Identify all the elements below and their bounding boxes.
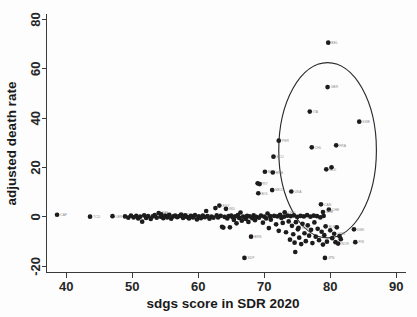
- data-point-label: BRN: [254, 235, 262, 239]
- data-point-marker: [110, 214, 115, 219]
- scatter-plot-canvas: -20020406080405060708090 CAFTCDLBRZAFLAO…: [0, 0, 417, 317]
- data-point-label: ITA: [313, 110, 319, 114]
- data-point-label: GBR: [331, 85, 339, 89]
- data-point-marker: [154, 215, 159, 220]
- scatter-plot-figure: -20020406080405060708090 CAFTCDLBRZAFLAO…: [0, 0, 417, 317]
- data-point-marker: [309, 145, 314, 150]
- data-point-label: CAF: [60, 213, 67, 217]
- x-tick-label: 80: [323, 279, 337, 294]
- data-point-marker: [276, 228, 281, 233]
- data-point-marker: [228, 225, 233, 230]
- data-point-label: USA: [294, 190, 302, 194]
- data-point-marker: [204, 209, 209, 214]
- data-point-marker: [270, 188, 275, 193]
- x-axis-title: sdgs score in SDR 2020: [146, 296, 299, 311]
- data-point-label: CHL: [315, 146, 322, 150]
- data-point-label: CAN: [324, 203, 332, 207]
- data-point-marker: [334, 143, 339, 148]
- data-point-marker: [261, 220, 266, 225]
- x-tick-label: 60: [191, 279, 205, 294]
- data-point-marker: [270, 170, 275, 175]
- data-point-marker: [276, 138, 281, 143]
- data-point-marker: [322, 233, 327, 238]
- data-point-label: MKD: [275, 188, 283, 192]
- data-point-marker: [325, 85, 330, 90]
- data-point-marker: [299, 242, 304, 247]
- data-point-label: SDP: [248, 256, 256, 260]
- data-point-marker: [249, 234, 254, 239]
- data-point-marker: [328, 228, 333, 233]
- data-point-marker: [310, 241, 315, 246]
- data-point-marker: [313, 234, 318, 239]
- data-point-marker: [213, 206, 218, 211]
- data-point-marker: [221, 225, 226, 230]
- data-point-marker: [321, 214, 326, 219]
- data-point-marker: [140, 219, 145, 224]
- y-tick-label: -20: [28, 257, 43, 276]
- data-point-marker: [264, 216, 269, 221]
- data-point-marker: [217, 203, 222, 208]
- data-point-marker: [302, 231, 307, 236]
- data-point-marker: [323, 256, 328, 261]
- data-point-marker: [305, 223, 310, 228]
- data-point-marker: [293, 250, 298, 255]
- data-point-marker: [257, 182, 262, 187]
- data-point-marker: [307, 109, 312, 114]
- data-point-label: SRB: [326, 210, 334, 214]
- data-point-marker: [238, 210, 243, 215]
- data-point-label: ECU: [277, 155, 285, 159]
- data-point-label: IND: [229, 207, 235, 211]
- data-point-marker: [312, 220, 317, 225]
- data-point-marker: [297, 235, 302, 240]
- data-point-marker: [138, 214, 143, 219]
- data-point-marker: [193, 213, 198, 218]
- data-point-marker: [338, 237, 343, 242]
- y-tick-label: 60: [28, 62, 43, 76]
- data-point-marker: [353, 240, 358, 245]
- data-point-marker: [290, 223, 295, 228]
- data-point-marker: [263, 169, 268, 174]
- data-point-marker: [352, 227, 357, 232]
- data-point-marker: [300, 222, 305, 227]
- data-point-marker: [55, 212, 60, 217]
- data-point-marker: [336, 241, 341, 246]
- y-axis-title: adjusted death rate: [4, 81, 19, 205]
- x-tick-label: 50: [125, 279, 139, 294]
- data-point-marker: [357, 119, 362, 124]
- data-point-marker: [334, 225, 339, 230]
- data-point-label: FIN: [358, 240, 364, 244]
- data-point-label: NOR: [341, 242, 349, 246]
- data-point-marker: [292, 240, 297, 245]
- x-tick-label: 90: [389, 279, 403, 294]
- data-point-marker: [280, 221, 285, 226]
- data-point-marker: [218, 214, 223, 219]
- plot-background: [0, 0, 417, 317]
- data-point-marker: [309, 227, 314, 232]
- data-point-marker: [234, 221, 239, 226]
- data-point-marker: [321, 210, 326, 215]
- data-point-label: BEL: [331, 41, 338, 45]
- data-point-marker: [242, 256, 247, 261]
- data-point-marker: [325, 239, 330, 244]
- data-point-marker: [224, 206, 229, 211]
- data-point-label: DNK: [357, 228, 365, 232]
- data-point-label: SWE: [362, 120, 371, 124]
- data-point-marker: [284, 230, 289, 235]
- data-point-marker: [294, 220, 299, 225]
- data-point-label: LBR: [116, 215, 123, 219]
- data-point-marker: [329, 165, 334, 170]
- data-point-marker: [271, 154, 276, 159]
- x-tick-label: 40: [59, 279, 73, 294]
- data-point-marker: [267, 226, 272, 231]
- y-tick-label: 80: [28, 12, 43, 26]
- data-point-marker: [291, 232, 296, 237]
- data-point-label: BOL: [261, 192, 268, 196]
- data-point-marker: [315, 226, 320, 231]
- data-point-label: JPN: [328, 256, 335, 260]
- data-point-marker: [332, 231, 337, 236]
- data-point-label: TCD: [93, 215, 101, 219]
- data-point-marker: [303, 239, 308, 244]
- data-point-marker: [319, 202, 324, 207]
- y-tick-label: 0: [28, 213, 43, 220]
- data-point-marker: [268, 217, 273, 222]
